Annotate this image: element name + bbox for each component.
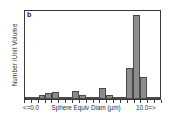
bar bbox=[32, 97, 39, 99]
bar bbox=[113, 97, 120, 99]
bar bbox=[72, 91, 79, 99]
bar bbox=[140, 77, 147, 99]
chart-figure: Number /Unit Volume b <=0.0 10.0=> Spher… bbox=[0, 0, 172, 124]
bar bbox=[66, 97, 73, 99]
bar bbox=[153, 97, 160, 99]
x-tick-mark bbox=[134, 100, 135, 103]
x-tick-mark bbox=[72, 100, 73, 103]
x-tick-mark bbox=[154, 100, 155, 103]
x-tick-mark bbox=[31, 100, 32, 103]
bar bbox=[86, 97, 93, 99]
x-axis-label: Sphere Equiv Diam (µm) bbox=[0, 105, 172, 111]
x-tick-mark bbox=[24, 100, 25, 103]
x-tick-mark bbox=[86, 100, 87, 103]
x-tick-mark bbox=[79, 100, 80, 103]
bar bbox=[93, 97, 100, 99]
x-tick-mark bbox=[45, 100, 46, 103]
bar bbox=[79, 95, 86, 99]
bar bbox=[106, 95, 113, 99]
x-tick-mark bbox=[58, 100, 59, 103]
x-tick-mark bbox=[113, 100, 114, 103]
x-tick-mark bbox=[161, 100, 162, 103]
bar bbox=[133, 15, 140, 99]
bar bbox=[25, 97, 32, 99]
y-axis-label: Number /Unit Volume bbox=[12, 24, 18, 87]
x-tick-mark bbox=[99, 100, 100, 103]
x-tick-mark bbox=[147, 100, 148, 103]
x-tick-mark bbox=[65, 100, 66, 103]
x-tick-mark bbox=[93, 100, 94, 103]
bar bbox=[52, 92, 59, 99]
x-tick-mark bbox=[140, 100, 141, 103]
x-tick-mark bbox=[120, 100, 121, 103]
bar bbox=[45, 93, 52, 99]
x-tick-mark bbox=[106, 100, 107, 103]
plot-area: b bbox=[24, 10, 161, 100]
bar bbox=[99, 88, 106, 99]
x-tick-mark bbox=[51, 100, 52, 103]
y-axis-label-wrapper: Number /Unit Volume bbox=[8, 10, 22, 100]
bar bbox=[59, 97, 66, 99]
x-tick-mark bbox=[127, 100, 128, 103]
bar bbox=[126, 68, 133, 99]
bar bbox=[120, 97, 127, 99]
bar-series bbox=[25, 11, 160, 99]
bar bbox=[39, 95, 46, 99]
x-tick-mark bbox=[38, 100, 39, 103]
bar bbox=[147, 97, 154, 99]
